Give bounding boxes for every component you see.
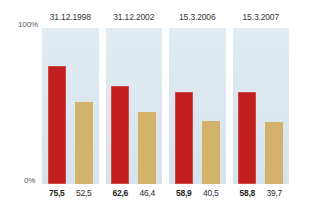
bar-secondary-value: 40,5: [202, 188, 220, 198]
group-bars: [106, 28, 163, 184]
bar-primary-value: 62,6: [111, 188, 129, 198]
bar-secondary[interactable]: [265, 122, 283, 184]
bar-chart: 100% 0% 31.12.1998 75,5 52,5 31.12.2002 …: [0, 0, 310, 208]
group-value-labels: 75,5 52,5: [42, 188, 99, 198]
bar-primary[interactable]: [238, 92, 256, 184]
bar-secondary[interactable]: [202, 121, 220, 184]
group-value-labels: 58,8 39,7: [233, 188, 290, 198]
group-value-labels: 62,6 46,4: [106, 188, 163, 198]
bar-primary-value: 75,5: [48, 188, 66, 198]
bar-secondary-value: 52,5: [75, 188, 93, 198]
bar-secondary-value: 46,4: [138, 188, 156, 198]
chart-group-4: 15.3.2007 58,8 39,7: [233, 12, 290, 208]
bar-secondary[interactable]: [138, 112, 156, 184]
group-title: 15.3.2006: [169, 12, 226, 22]
bar-primary[interactable]: [48, 66, 66, 184]
group-bars: [233, 28, 290, 184]
bar-primary-value: 58,9: [175, 188, 193, 198]
y-axis-min-label: 0%: [24, 176, 35, 185]
chart-groups: 31.12.1998 75,5 52,5 31.12.2002 62,6 46,…: [42, 12, 289, 208]
chart-group-3: 15.3.2006 58,9 40,5: [169, 12, 226, 208]
group-value-labels: 58,9 40,5: [169, 188, 226, 198]
group-bars: [169, 28, 226, 184]
bar-secondary[interactable]: [75, 102, 93, 184]
bar-secondary-value: 39,7: [265, 188, 283, 198]
chart-group-2: 31.12.2002 62,6 46,4: [106, 12, 163, 208]
chart-group-1: 31.12.1998 75,5 52,5: [42, 12, 99, 208]
group-title: 31.12.1998: [42, 12, 99, 22]
group-title: 15.3.2007: [233, 12, 290, 22]
group-bars: [42, 28, 99, 184]
y-axis-max-label: 100%: [18, 20, 38, 29]
bar-primary[interactable]: [111, 86, 129, 184]
group-title: 31.12.2002: [106, 12, 163, 22]
bar-primary[interactable]: [175, 92, 193, 184]
bar-primary-value: 58,8: [238, 188, 256, 198]
